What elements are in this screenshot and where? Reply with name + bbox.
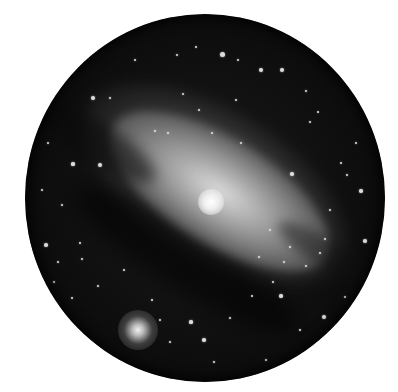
star (229, 317, 231, 319)
star (290, 172, 294, 176)
star (169, 341, 171, 343)
star (97, 285, 99, 287)
star (259, 68, 263, 72)
star (44, 243, 48, 247)
star (235, 99, 237, 101)
star (340, 162, 342, 164)
star (359, 189, 363, 193)
star (176, 54, 178, 56)
star (79, 242, 82, 245)
star (195, 46, 197, 48)
star (299, 329, 301, 331)
star (346, 174, 348, 176)
star (355, 142, 357, 144)
star (305, 90, 307, 92)
star (213, 361, 215, 363)
star (61, 204, 63, 206)
star (279, 294, 283, 298)
star (317, 111, 319, 113)
galaxy-core (198, 189, 224, 215)
star (189, 320, 192, 323)
star (220, 52, 225, 57)
star (237, 59, 239, 61)
star (344, 296, 346, 298)
star (41, 189, 43, 191)
star (134, 59, 136, 61)
star (322, 315, 326, 319)
telescope-field-of-view (25, 14, 385, 382)
star (71, 297, 73, 299)
star (202, 338, 206, 342)
star (71, 162, 74, 165)
star (363, 239, 367, 243)
companion-galaxy (118, 310, 158, 350)
star (309, 121, 311, 123)
star (123, 269, 125, 271)
star (81, 258, 84, 261)
star (265, 359, 267, 361)
star (159, 319, 161, 321)
star (57, 261, 60, 264)
star (280, 68, 284, 72)
star (53, 281, 55, 283)
star (151, 299, 154, 302)
star (47, 142, 50, 145)
